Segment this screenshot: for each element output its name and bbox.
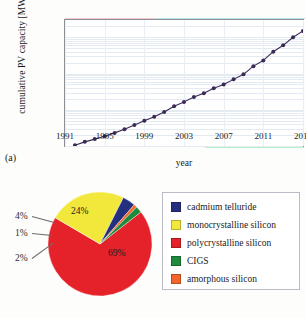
panel-a-label: (a) (5, 152, 16, 163)
pie-percentage-label: 69% (108, 248, 125, 258)
pie-percentage-label: 24% (71, 206, 88, 216)
legend-item[interactable]: cadmium telluride (171, 198, 299, 216)
data-point-marker (172, 104, 176, 108)
data-point-marker (271, 50, 275, 54)
x-tick-label: 1991 (56, 131, 74, 141)
pie-graphic (48, 177, 152, 311)
legend-item-label: amorphous silicon (187, 274, 257, 284)
x-tick-label: 2003 (175, 131, 193, 141)
legend-color-swatch-icon (171, 274, 181, 284)
plot-area (64, 19, 304, 147)
data-point-marker (212, 86, 216, 90)
x-tick-label: 1999 (135, 131, 153, 141)
data-point-marker (123, 127, 127, 131)
legend-color-swatch-icon (171, 238, 181, 248)
legend-item-label: polycrystalline silicon (187, 238, 271, 248)
x-axis-label: year (64, 158, 304, 168)
data-point-marker (83, 140, 87, 144)
grid-line-vertical (303, 20, 304, 146)
scan-fringe-bottom-right (205, 147, 304, 148)
y-axis-label: cumulative PV capacity [MW] (17, 0, 27, 119)
x-tick-label: 2007 (215, 131, 233, 141)
legend-item-label: monocrystalline silicon (187, 220, 276, 230)
figure-container: cumulative PV capacity [MW] year 1001 00… (0, 0, 306, 318)
legend-item[interactable]: polycrystalline silicon (171, 234, 299, 252)
pie-slices (48, 177, 152, 311)
legend-item-label: cadmium telluride (187, 202, 256, 212)
data-point-marker (242, 72, 246, 76)
data-point-marker (182, 100, 186, 104)
x-tick-label: 1995 (96, 131, 114, 141)
data-point-marker (162, 110, 166, 114)
legend-item-label: CIGS (187, 256, 209, 266)
data-point-marker (132, 123, 136, 127)
data-point-marker (291, 35, 295, 39)
data-point-marker (232, 77, 236, 81)
data-point-marker (73, 143, 77, 146)
legend-item[interactable]: CIGS (171, 252, 299, 270)
data-point-marker (261, 58, 265, 62)
panel-b-pie-chart: 24%69%4%1%2% cadmium telluridemonocrysta… (0, 170, 306, 318)
data-point-marker (202, 91, 206, 95)
data-point-marker (142, 119, 146, 123)
legend-color-swatch-icon (171, 220, 181, 230)
scan-fringe-top-right (155, 18, 305, 19)
legend-item[interactable]: monocrystalline silicon (171, 216, 299, 234)
x-tick-label: 2015 (294, 131, 306, 141)
pie-percentage-label: 4% (15, 211, 28, 221)
legend-item[interactable]: amorphous silicon (171, 270, 299, 288)
panel-a-line-chart: cumulative PV capacity [MW] year 1001 00… (0, 0, 306, 170)
data-point-marker (192, 95, 196, 99)
pie-percentage-label: 1% (15, 228, 28, 238)
data-point-marker (152, 115, 156, 119)
data-point-marker (281, 43, 285, 47)
pie-percentage-label: 2% (15, 253, 28, 263)
legend-color-swatch-icon (171, 256, 181, 266)
pie-legend: cadmium telluridemonocrystalline silicon… (162, 192, 300, 290)
legend-color-swatch-icon (171, 202, 181, 212)
x-tick-label: 2011 (254, 131, 272, 141)
data-line-series (65, 20, 303, 146)
data-point-marker (222, 82, 226, 86)
data-point-marker (251, 64, 255, 68)
scan-fringe-top-left (65, 18, 155, 19)
